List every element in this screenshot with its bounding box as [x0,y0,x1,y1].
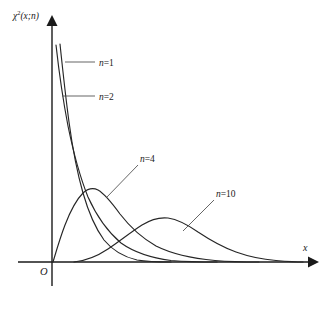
curve-n-2 [56,45,217,262]
curve-n-10 [74,218,303,262]
series-label-n-2: n=2 [99,93,114,103]
y-axis [47,15,58,286]
series-label-n-1: n=1 [99,59,114,69]
y-axis-label: χ2(x;n) [13,12,39,22]
leader-line-n-10 [183,200,214,231]
plot-canvas [0,0,331,316]
series-label-n-4: n=4 [140,155,155,165]
origin-label: O [40,267,48,278]
chi-squared-density-figure: χ2(x;n) x O n=1 n=2 n=4 n=10 [0,0,331,316]
series-label-n-1-value: 1 [109,58,114,68]
series-label-n-4-value: 4 [150,154,155,164]
curve-n-4 [53,189,259,262]
series-label-n-10-value: 10 [226,189,236,199]
series-label-n-10: n=10 [216,190,236,200]
y-axis-label-args: (x;n) [20,11,38,21]
series-label-n-2-value: 2 [109,92,114,102]
x-axis-arrowhead [308,257,319,268]
y-axis-arrowhead [47,15,58,26]
leader-line-n-4 [106,165,138,198]
curve-n-1 [60,44,171,262]
x-axis-label: x [303,243,307,253]
